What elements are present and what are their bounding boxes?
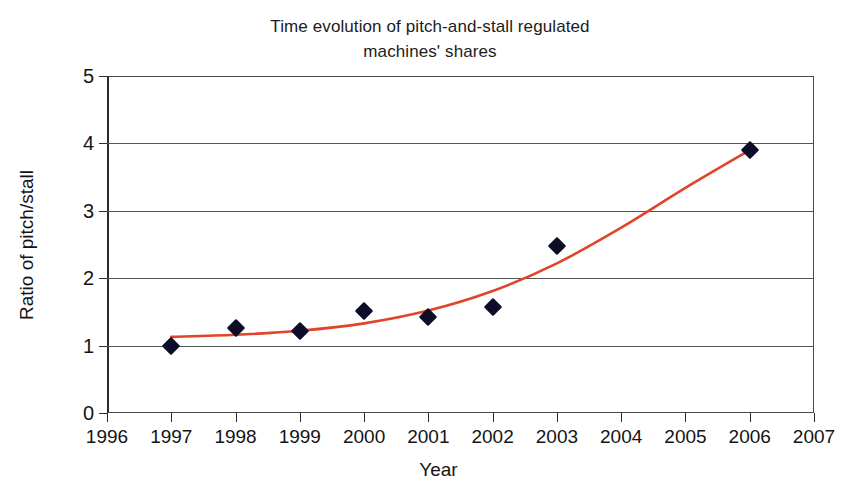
gridline (107, 143, 814, 144)
y-axis-tick (99, 346, 107, 347)
gridline (107, 278, 814, 279)
x-axis-tick-label: 1999 (279, 426, 321, 448)
x-axis-tick-label: 2005 (664, 426, 706, 448)
x-axis-tick-label: 2003 (536, 426, 578, 448)
y-axis-tick-label: 5 (83, 65, 94, 88)
plot-area: 012345 199619971998199920002001200220032… (107, 76, 814, 413)
chart-title: Time evolution of pitch-and-stall regula… (0, 14, 860, 64)
x-axis-tick (750, 413, 751, 422)
x-axis-tick (171, 413, 172, 422)
x-axis-tick-label: 2004 (600, 426, 642, 448)
x-axis-tick (428, 413, 429, 422)
chart-title-line-2: machines' shares (0, 39, 860, 64)
x-axis-tick-label: 1998 (214, 426, 256, 448)
y-axis-title-text: Ratio of pitch/stall (16, 170, 38, 320)
plot-frame (107, 76, 814, 413)
y-axis-tick-label: 4 (83, 132, 94, 155)
x-axis-tick (364, 413, 365, 422)
x-axis-title: Year (107, 459, 814, 481)
x-axis-tick (621, 413, 622, 422)
chart-figure: Time evolution of pitch-and-stall regula… (0, 0, 860, 496)
y-axis-tick (99, 76, 107, 77)
x-axis-tick (493, 413, 494, 422)
x-axis-tick-label: 1997 (150, 426, 192, 448)
gridline (107, 211, 814, 212)
x-axis-tick-label: 2001 (407, 426, 449, 448)
x-axis-tick (685, 413, 686, 422)
y-axis-tick-label: 0 (83, 402, 94, 425)
x-axis-tick (557, 413, 558, 422)
x-axis-tick-label: 2002 (471, 426, 513, 448)
x-axis-tick-label: 2000 (343, 426, 385, 448)
x-axis-tick (300, 413, 301, 422)
y-axis-tick (99, 211, 107, 212)
y-axis-title: Ratio of pitch/stall (14, 76, 40, 413)
x-axis-tick-label: 2007 (793, 426, 835, 448)
y-axis-tick-label: 3 (83, 199, 94, 222)
x-axis-tick-label: 2006 (729, 426, 771, 448)
chart-title-line-1: Time evolution of pitch-and-stall regula… (0, 14, 860, 39)
x-axis-tick (107, 413, 108, 422)
gridline (107, 346, 814, 347)
x-axis-tick (814, 413, 815, 422)
y-axis-tick-label: 1 (83, 334, 94, 357)
y-axis-tick-label: 2 (83, 267, 94, 290)
x-axis-title-text: Year (419, 459, 457, 480)
x-axis-tick-label: 1996 (86, 426, 128, 448)
y-axis-tick (99, 278, 107, 279)
x-axis-tick (236, 413, 237, 422)
y-axis-tick (99, 143, 107, 144)
y-axis-tick (99, 413, 107, 414)
